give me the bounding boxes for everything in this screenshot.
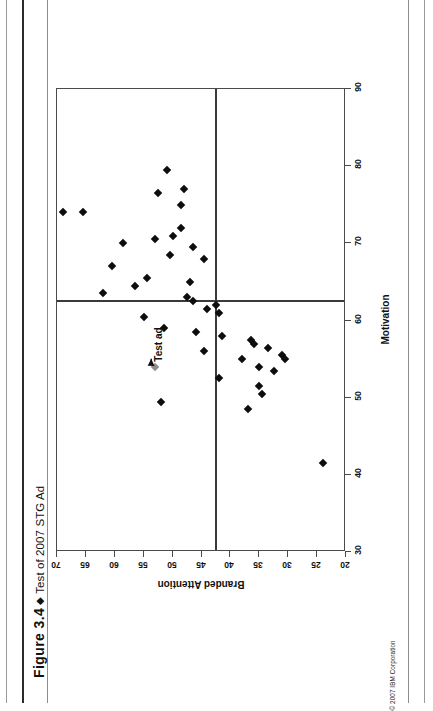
test-ad-arrow-icon	[0, 0, 433, 703]
figure-page: Figure 3.4◆Test of 2007 STG Ad © 2007 IB…	[0, 0, 433, 703]
